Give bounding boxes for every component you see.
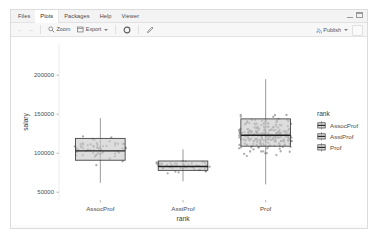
data-point	[95, 164, 97, 166]
data-point	[238, 147, 240, 149]
publish-icon	[315, 27, 322, 34]
data-point	[285, 114, 287, 116]
legend-title: rank	[317, 110, 331, 117]
x-axis-tick-label: Prof	[260, 205, 272, 212]
y-axis-title: salary	[22, 113, 30, 131]
ggplot-boxplot-figure: 50000100000150000200000salaryAssocProfAs…	[11, 38, 367, 228]
remove-plot-icon	[123, 26, 131, 34]
screenshot-root: Files Plots Packages Help Viewer ← → Zoo…	[0, 0, 391, 238]
data-point	[260, 150, 262, 152]
data-point	[238, 136, 240, 138]
toolbar-separator-3	[138, 25, 139, 34]
tab-viewer[interactable]: Viewer	[117, 10, 145, 23]
box	[158, 161, 208, 170]
data-point	[246, 155, 248, 157]
zoom-label: Zoom	[57, 24, 71, 35]
data-point	[238, 144, 240, 146]
publish-label: Publish	[323, 25, 341, 36]
chevron-down-icon	[104, 29, 108, 31]
data-point	[280, 150, 282, 152]
data-point	[156, 162, 158, 164]
x-axis-tick-label: AsstProf	[171, 205, 195, 212]
publish-area: Publish	[313, 23, 363, 37]
data-point	[289, 151, 291, 153]
toolbar-separator	[40, 25, 41, 34]
y-axis-tick-label: 200000	[34, 72, 55, 78]
remove-plot-button[interactable]	[121, 24, 133, 35]
tab-files[interactable]: Files	[11, 10, 35, 23]
export-button[interactable]: Export	[75, 24, 110, 35]
clear-all-plots-button[interactable]	[144, 24, 156, 35]
data-point	[252, 148, 254, 150]
refresh-plot-button[interactable]	[352, 25, 363, 36]
data-point	[262, 150, 264, 152]
pane-tab-strip: Files Plots Packages Help Viewer	[11, 10, 367, 23]
previous-plot-button[interactable]: ←	[16, 25, 24, 35]
data-point	[272, 116, 274, 118]
maximize-icon[interactable]	[356, 12, 363, 18]
data-point	[240, 116, 242, 118]
data-point	[264, 152, 266, 154]
legend-item-Prof[interactable]: Prof	[317, 143, 342, 152]
tab-plots[interactable]: Plots	[35, 10, 59, 23]
magnifier-icon	[48, 26, 55, 33]
data-point	[82, 135, 84, 137]
legend-label: Prof	[330, 144, 342, 151]
export-label: Export	[86, 24, 102, 35]
plot-canvas: 50000100000150000200000salaryAssocProfAs…	[11, 38, 367, 228]
toolbar-separator-2	[115, 25, 116, 34]
box	[241, 119, 291, 146]
data-point	[258, 146, 260, 148]
data-point	[279, 147, 281, 149]
data-point	[243, 153, 245, 155]
horizontal-scrollbar[interactable]	[11, 225, 367, 228]
next-plot-button[interactable]: →	[27, 25, 35, 35]
rstudio-plots-pane: Files Plots Packages Help Viewer ← → Zoo…	[10, 9, 368, 229]
box	[76, 138, 126, 160]
window-controls	[347, 12, 363, 18]
tab-help[interactable]: Help	[95, 10, 117, 23]
y-axis-tick-label: 150000	[34, 111, 55, 117]
data-point	[177, 171, 179, 173]
minimize-icon[interactable]	[347, 13, 353, 18]
plots-toolbar: ← → Zoom Export	[11, 23, 367, 37]
y-axis-tick-label: 100000	[34, 150, 55, 156]
publish-chevron-down-icon	[344, 29, 348, 31]
data-point	[274, 114, 276, 116]
x-axis-tick-label: AssocProf	[86, 205, 114, 212]
legend-label: AssocProf	[330, 122, 358, 129]
legend-item-AssocProf[interactable]: AssocProf	[317, 121, 358, 130]
zoom-button[interactable]: Zoom	[46, 24, 72, 35]
x-axis-title: rank	[176, 215, 190, 222]
data-point	[249, 150, 251, 152]
data-point	[208, 166, 210, 168]
legend-label: AsstProf	[330, 133, 354, 140]
publish-button[interactable]: Publish	[313, 25, 350, 36]
data-point	[167, 172, 169, 174]
tab-packages[interactable]: Packages	[59, 10, 94, 23]
legend-item-AsstProf[interactable]: AsstProf	[317, 132, 354, 141]
clear-all-plots-icon	[146, 26, 154, 34]
y-axis-tick-label: 50000	[37, 189, 54, 195]
data-point	[275, 154, 277, 156]
export-icon	[77, 26, 84, 33]
